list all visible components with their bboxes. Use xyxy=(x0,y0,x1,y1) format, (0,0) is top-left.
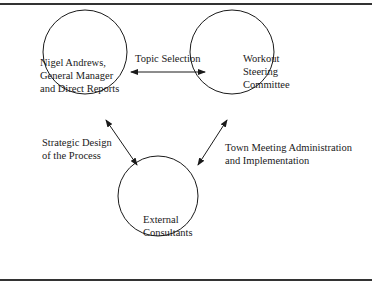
label-line: Nigel Andrews, xyxy=(40,56,119,69)
label-line: Workout xyxy=(243,52,290,65)
label-line: External xyxy=(143,213,193,226)
node-steering-label: Workout Steering Committee xyxy=(243,52,290,91)
edge-topic-label: Topic Selection xyxy=(135,52,200,65)
label-line: and Implementation xyxy=(225,154,352,167)
label-line: Consultants xyxy=(143,226,193,239)
label-line: of the Process xyxy=(42,149,112,162)
label-line: Strategic Design xyxy=(42,136,112,149)
label-line: Topic Selection xyxy=(135,52,200,65)
label-line: Town Meeting Administration xyxy=(225,141,352,154)
edge-town-arrow xyxy=(198,120,227,165)
node-consultants-label: External Consultants xyxy=(143,213,193,239)
edge-strategic-label: Strategic Design of the Process xyxy=(42,136,112,162)
label-line: General Manager xyxy=(40,69,119,82)
edge-town-label: Town Meeting Administration and Implemen… xyxy=(225,141,352,167)
label-line: Committee xyxy=(243,78,290,91)
node-nigel-label: Nigel Andrews, General Manager and Direc… xyxy=(40,56,119,95)
label-line: and Direct Reports xyxy=(40,82,119,95)
label-line: Steering xyxy=(243,65,290,78)
